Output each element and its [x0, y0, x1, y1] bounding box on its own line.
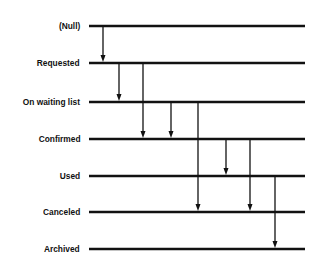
transition-arrow-1 [117, 64, 122, 101]
arrowhead-icon [248, 204, 253, 211]
transition-arrow-5 [224, 140, 229, 175]
transition-arrow-3 [169, 103, 174, 138]
arrowhead-icon [169, 131, 174, 138]
arrowhead-icon [101, 55, 106, 62]
state-transition-diagram [0, 0, 319, 264]
arrowhead-icon [224, 168, 229, 175]
arrowhead-icon [117, 94, 122, 101]
transition-arrow-0 [101, 27, 106, 62]
arrowhead-icon [273, 241, 278, 248]
arrowhead-icon [196, 204, 201, 211]
arrowhead-icon [141, 131, 146, 138]
transition-arrow-4 [196, 103, 201, 211]
state-lines [89, 26, 305, 249]
transition-arrows [101, 27, 278, 248]
